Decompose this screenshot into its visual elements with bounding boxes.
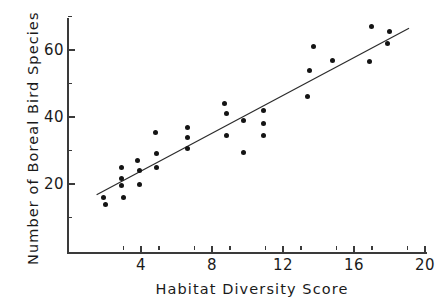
- data-point: [261, 108, 266, 113]
- data-point: [137, 182, 142, 187]
- data-point: [135, 158, 140, 163]
- x-axis-title: Habitat Diversity Score: [0, 281, 448, 297]
- data-point: [330, 58, 335, 63]
- y-axis-title: Number of Boreal Bird Species: [25, 15, 41, 265]
- regression-line: [0, 0, 448, 307]
- data-point: [137, 168, 142, 173]
- data-point: [222, 101, 227, 106]
- data-point: [307, 68, 312, 73]
- scatter-chart: 204060 48121620 Number of Boreal Bird Sp…: [0, 0, 448, 307]
- data-point: [119, 165, 124, 170]
- data-point: [311, 44, 316, 49]
- data-point: [224, 111, 229, 116]
- data-point: [154, 151, 159, 156]
- data-point: [185, 135, 190, 140]
- data-point: [121, 195, 126, 200]
- data-point: [103, 202, 108, 207]
- data-point: [153, 130, 158, 135]
- data-point: [224, 133, 229, 138]
- data-point: [261, 133, 266, 138]
- data-point: [185, 146, 190, 151]
- data-point: [185, 125, 190, 130]
- plot-area: [0, 0, 448, 307]
